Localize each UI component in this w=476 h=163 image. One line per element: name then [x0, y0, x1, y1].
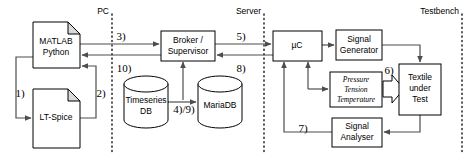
step-label-6: 6) [384, 64, 394, 77]
node-lt-spice[interactable]: LT-Spice [33, 89, 80, 148]
architecture-diagram: PC Server Testbench [0, 0, 476, 163]
node-signal-analyser-line2: Analyser [340, 132, 373, 142]
node-timeseries-db-line2: DB [140, 106, 152, 116]
node-matlab-python-line1: MATLAB [39, 36, 73, 46]
zone-label-pc: PC [97, 6, 109, 16]
flow-2-ltspice-to-matlab [80, 66, 96, 118]
node-microcontroller-label: µC [291, 40, 302, 50]
node-broker-line1: Broker / [173, 35, 203, 45]
node-textile-line2: under [409, 83, 431, 93]
node-signal-analyser[interactable]: Signal Analyser [332, 118, 382, 147]
node-broker-line2: Supervisor [168, 46, 209, 56]
node-signal-generator[interactable]: Signal Generator [336, 30, 382, 60]
node-matlab-python[interactable]: MATLAB Python [33, 22, 80, 68]
node-lt-spice-label: LT-Spice [40, 112, 73, 122]
step-label-7: 7) [298, 122, 308, 135]
node-sensors-line1: Pressure [342, 75, 370, 84]
diagram-canvas: PC Server Testbench [0, 0, 476, 163]
node-sensors-line2: Tension [344, 85, 368, 94]
node-signal-generator-line1: Signal [347, 34, 371, 44]
node-sensors-line3: Temperature [337, 95, 376, 104]
flow-textile-to-signal-analyser [384, 115, 420, 132]
node-signal-generator-line2: Generator [340, 45, 378, 55]
zone-label-server: Server [236, 6, 261, 16]
step-label-10: 10) [117, 62, 132, 75]
node-timeseries-db[interactable]: Timeseries DB [124, 76, 168, 128]
node-textile-line1: Textile [408, 72, 432, 82]
node-matlab-python-line2: Python [43, 47, 70, 57]
node-sensors[interactable]: Pressure Tension Temperature [330, 72, 382, 107]
node-broker-supervisor[interactable]: Broker / Supervisor [161, 31, 215, 61]
node-textile-line3: Test [412, 94, 428, 104]
step-label-4-9: 4)/9) [173, 103, 195, 116]
step-label-2: 2) [96, 87, 106, 100]
node-timeseries-db-line1: Timeseries [125, 95, 166, 105]
step-label-1: 1) [15, 87, 25, 100]
step-label-5: 5) [236, 30, 246, 43]
step-label-3: 3) [116, 30, 126, 43]
node-mariadb-label: MariaDB [203, 100, 236, 110]
node-mariadb[interactable]: MariaDB [198, 76, 242, 128]
step-label-8: 8) [236, 62, 246, 75]
node-signal-analyser-line1: Signal [345, 121, 369, 131]
node-textile-under-test[interactable]: Textile under Test [399, 64, 441, 115]
zone-label-testbench: Testbench [420, 6, 459, 16]
flow-6-signal-generator-to-textile [382, 45, 420, 62]
node-microcontroller[interactable]: µC [273, 31, 322, 61]
